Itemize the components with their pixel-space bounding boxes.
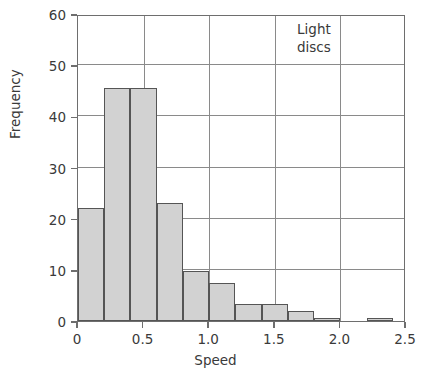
y-tick-label: 20	[49, 212, 66, 228]
histogram-bar	[104, 88, 130, 321]
histogram-bar	[183, 271, 209, 321]
x-tick-label: 2.5	[394, 331, 415, 347]
x-tick-mark	[76, 322, 78, 328]
histogram-bar	[288, 311, 314, 321]
histogram-bar	[209, 283, 235, 321]
x-tick-label: 1.0	[197, 331, 218, 347]
y-tick-label: 0	[57, 314, 66, 330]
y-axis-title: Frequency	[7, 117, 23, 139]
x-axis-title: Speed	[0, 352, 431, 368]
histogram-bar	[235, 304, 261, 321]
histogram-bar	[78, 208, 104, 321]
x-tick-mark	[142, 322, 144, 328]
y-tick-label: 60	[49, 7, 66, 23]
histogram-bars	[78, 16, 404, 321]
histogram-bar	[157, 203, 183, 321]
histogram-bar	[130, 88, 156, 321]
histogram-figure: Frequency 0102030405060 00.51.01.52.02.5…	[0, 0, 431, 385]
histogram-bar	[262, 304, 288, 321]
x-tick-mark	[404, 322, 406, 328]
y-tick-label: 10	[49, 263, 66, 279]
y-tick-label: 40	[49, 109, 66, 125]
x-tick-label: 1.5	[263, 331, 284, 347]
x-tick-mark	[207, 322, 209, 328]
histogram-bar	[314, 318, 340, 321]
annotation-line-1: Light	[297, 20, 331, 38]
y-tick-label: 30	[49, 161, 66, 177]
x-tick-label: 2.0	[329, 331, 350, 347]
annotation-line-2: discs	[297, 38, 331, 56]
x-tick-label: 0.5	[132, 331, 153, 347]
x-tick-mark	[339, 322, 341, 328]
histogram-bar	[367, 318, 393, 321]
x-tick-label: 0	[73, 331, 82, 347]
y-tick-label: 50	[49, 58, 66, 74]
chart-annotation: Light discs	[297, 20, 331, 56]
plot-area	[77, 15, 405, 322]
x-tick-mark	[273, 322, 275, 328]
